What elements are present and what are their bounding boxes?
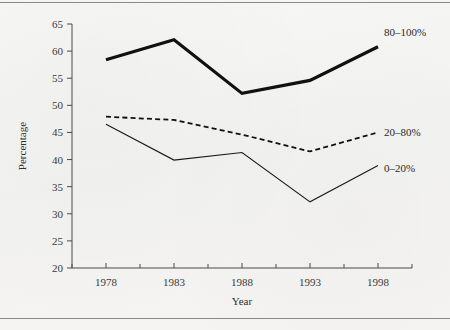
chart-axes [72, 24, 412, 268]
y-tick-label: 30 [52, 208, 64, 220]
series-line-3 [106, 124, 378, 202]
y-tick-label: 50 [52, 99, 64, 111]
x-tick-label: 1988 [231, 276, 254, 288]
series-label-3: 0–20% [384, 162, 415, 174]
x-axis-ticks: 19781983198819931998 [72, 263, 412, 288]
y-tick-label: 65 [52, 18, 64, 30]
y-tick-label: 45 [52, 126, 64, 138]
y-tick-label: 25 [52, 235, 64, 247]
series-label-1: 80–100% [384, 26, 426, 38]
x-tick-label: 1983 [163, 276, 186, 288]
chart-series-group [106, 40, 378, 202]
y-tick-label: 20 [52, 262, 64, 274]
line-chart-figure: 20253035404550556065 1978198319881993199… [0, 0, 450, 330]
series-labels-group: 80–100%20–80%0–20% [384, 26, 426, 174]
y-tick-label: 60 [52, 45, 64, 57]
series-label-2: 20–80% [384, 126, 421, 138]
y-tick-label: 55 [52, 72, 64, 84]
y-axis-ticks: 20253035404550556065 [52, 18, 72, 274]
y-tick-label: 35 [52, 181, 64, 193]
chart-canvas: 20253035404550556065 1978198319881993199… [0, 0, 450, 330]
x-tick-label: 1993 [299, 276, 322, 288]
y-axis-title: Percentage [16, 122, 28, 170]
x-tick-label: 1978 [95, 276, 118, 288]
x-axis-title: Year [232, 295, 253, 307]
x-tick-label: 1998 [367, 276, 390, 288]
series-line-1 [106, 40, 378, 94]
y-tick-label: 40 [52, 154, 64, 166]
figure-page: 20253035404550556065 1978198319881993199… [0, 0, 450, 330]
